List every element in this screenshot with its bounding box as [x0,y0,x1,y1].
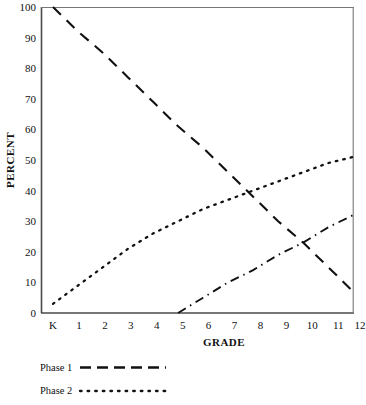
y-tick-80: 80 [25,62,37,74]
y-tick-20: 20 [25,246,37,258]
y-tick-30: 30 [25,215,37,227]
x-tick-9: 9 [284,319,290,331]
x-tick-11: 11 [333,319,344,331]
y-tick-0: 0 [31,307,37,319]
y-tick-70: 70 [25,93,37,105]
chart-figure: 100 90 80 70 60 50 40 30 20 10 0 K 1 2 3… [0,0,366,405]
x-tick-8: 8 [258,319,264,331]
x-tick-5: 5 [180,319,186,331]
x-tick-K: K [49,319,57,331]
y-axis-title: PERCENT [4,132,16,188]
x-tick-6: 6 [206,319,212,331]
x-tick-10: 10 [307,319,319,331]
y-tick-100: 100 [20,1,37,13]
y-tick-60: 60 [25,123,37,135]
x-tick-7: 7 [232,319,238,331]
chart-background [0,0,366,405]
x-tick-2: 2 [102,319,108,331]
x-tick-4: 4 [154,319,160,331]
legend-label-phase-2: Phase 2 [40,385,72,396]
x-tick-1: 1 [76,319,82,331]
x-tick-3: 3 [128,319,134,331]
legend-label-phase-1: Phase 1 [40,362,72,373]
x-axis-title: GRADE [203,336,245,348]
y-tick-90: 90 [25,32,37,44]
chart-svg: 100 90 80 70 60 50 40 30 20 10 0 K 1 2 3… [0,0,366,405]
y-tick-40: 40 [25,185,37,197]
x-tick-12: 12 [355,319,366,331]
y-tick-10: 10 [25,276,37,288]
y-tick-50: 50 [25,154,37,166]
